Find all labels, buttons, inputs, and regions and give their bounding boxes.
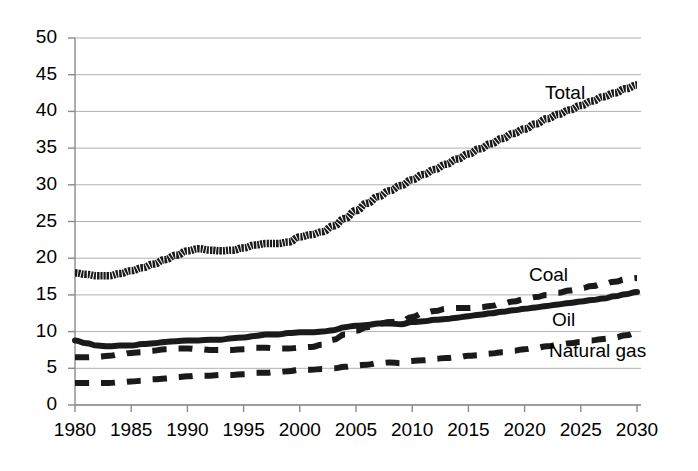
x-axis-tick-label: 1990	[157, 419, 217, 441]
series-label-oil: Oil	[552, 309, 575, 331]
data-series-group	[75, 85, 637, 383]
y-axis-tick-label: 10	[17, 320, 57, 342]
y-axis-tick-label: 25	[17, 210, 57, 232]
y-axis-tick-label: 0	[17, 393, 57, 415]
series-line-total	[75, 85, 637, 276]
x-axis-tick-label: 2005	[326, 419, 386, 441]
y-axis-tick-label: 5	[17, 356, 57, 378]
x-axis-tick-label: 2030	[607, 419, 667, 441]
y-axis-tick-label: 30	[17, 173, 57, 195]
chart-container: 05101520253035404550 1980198519901995200…	[0, 0, 698, 471]
y-axis-tick-label: 40	[17, 99, 57, 121]
x-axis-tick-label: 2025	[551, 419, 611, 441]
series-label-natural-gas: Natural gas	[549, 340, 646, 362]
x-axis-tick-label: 1980	[45, 419, 105, 441]
series-label-total: Total	[545, 82, 585, 104]
x-axis-tick-label: 2020	[495, 419, 555, 441]
x-axis-ticks	[75, 405, 637, 412]
y-axis-tick-label: 15	[17, 283, 57, 305]
series-label-coal: Coal	[529, 264, 568, 286]
y-axis-ticks	[68, 38, 75, 405]
y-axis-tick-label: 35	[17, 136, 57, 158]
y-axis-tick-label: 20	[17, 246, 57, 268]
y-axis-tick-label: 50	[17, 26, 57, 48]
y-axis-tick-label: 45	[17, 63, 57, 85]
x-axis-tick-label: 2015	[438, 419, 498, 441]
x-axis-tick-label: 1995	[214, 419, 274, 441]
x-axis-tick-label: 2000	[270, 419, 330, 441]
x-axis-tick-label: 1985	[101, 419, 161, 441]
chart-plot-area	[0, 0, 698, 471]
x-axis-tick-label: 2010	[382, 419, 442, 441]
